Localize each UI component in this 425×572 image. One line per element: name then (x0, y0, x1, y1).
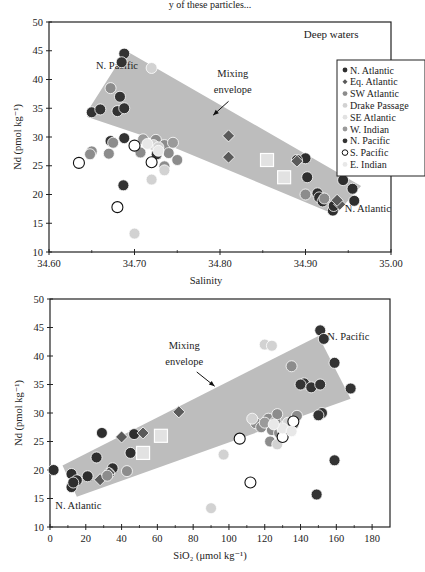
data-point-drake-passage (206, 503, 217, 514)
annotation: N. Atlantic (55, 500, 101, 511)
legend-marker (343, 68, 348, 73)
data-point-drake-passage (266, 340, 277, 351)
data-point-sw-atlantic (102, 470, 113, 481)
data-point-n-atlantic (91, 452, 102, 463)
data-point-n-pacific (116, 57, 127, 68)
y-axis-label: Nd (pmol kg⁻¹) (12, 104, 24, 170)
data-point-drake-passage (146, 174, 157, 185)
data-point-n-atlantic (349, 195, 360, 206)
legend-marker (343, 103, 348, 108)
annotation: envelope (214, 84, 252, 95)
data-point-sw-atlantic (286, 361, 297, 372)
data-point-s-pacific (146, 157, 157, 168)
x-tick-label: 180 (364, 533, 380, 544)
legend-marker (343, 115, 348, 120)
x-tick-label: 34.70 (123, 258, 147, 269)
data-point-sw-atlantic (85, 149, 96, 160)
x-tick-label: 100 (221, 533, 237, 544)
annotation: envelope (165, 356, 203, 367)
data-point-sw-atlantic (300, 189, 311, 200)
data-point-n-atlantic (347, 183, 358, 194)
data-point-s-pacific (288, 416, 299, 427)
data-point-drake-passage (129, 228, 140, 239)
data-point-n-pacific (329, 357, 340, 368)
legend-label: SW Atlantic (350, 88, 400, 99)
y-tick-label: 25 (34, 436, 45, 447)
data-point-drake-passage (247, 413, 258, 424)
data-point-drake-passage (146, 63, 157, 74)
data-point-n-atlantic (302, 172, 313, 183)
x-tick-label: 60 (152, 533, 163, 544)
y-tick-label: 25 (33, 160, 44, 171)
data-point-n-pacific (318, 333, 329, 344)
data-point-sw-atlantic (103, 148, 114, 159)
y-tick-label: 30 (33, 132, 44, 143)
legend-label: N. Atlantic (350, 65, 394, 76)
data-point-se-atlantic (278, 171, 291, 184)
x-tick-label: 34.60 (37, 258, 61, 269)
data-point-n-atlantic (82, 471, 93, 482)
legend-label: W. Indian (350, 124, 389, 135)
data-point-n-atlantic (125, 447, 136, 458)
data-point-n-pacific (119, 103, 130, 114)
legend-label: N. Pacific (350, 135, 391, 146)
legend-marker (343, 91, 348, 96)
figure: 34.6034.7034.8034.9035.00101520253035404… (0, 0, 425, 572)
y-tick-label: 20 (33, 189, 44, 200)
legend-marker (343, 138, 348, 143)
data-point-s-pacific (73, 157, 84, 168)
legend-label: Drake Passage (350, 100, 409, 111)
y-tick-label: 45 (34, 322, 45, 333)
y-tick-label: 35 (33, 103, 44, 114)
x-axis-label: SiO₂ (μmol kg⁻¹) (173, 550, 247, 562)
y-tick-label: 30 (34, 408, 45, 419)
x-axis-label: Salinity (190, 275, 223, 286)
y-tick-label: 15 (34, 493, 45, 504)
legend-label: SE Atlantic (350, 112, 396, 123)
data-point-s-pacific (245, 477, 256, 488)
annotation: Mixing (217, 68, 249, 79)
data-point-sw-atlantic (108, 137, 119, 148)
legend-label: E. Indian (350, 159, 387, 170)
y-tick-label: 10 (33, 247, 44, 258)
y-tick-label: 50 (34, 294, 45, 305)
data-point-n-pacific (95, 104, 106, 115)
y-tick-label: 40 (33, 74, 44, 85)
data-point-n-atlantic (48, 465, 59, 476)
data-point-sw-atlantic (105, 83, 116, 94)
x-tick-label: 140 (293, 533, 309, 544)
x-tick-label: 0 (47, 533, 52, 544)
annotation: Mixing (169, 340, 201, 351)
legend-label: S. Pacific (350, 147, 389, 158)
x-tick-label: 34.80 (208, 258, 232, 269)
data-point-n-atlantic (96, 427, 107, 438)
data-point-w-indian (167, 137, 178, 148)
data-point-n-pacific (114, 91, 125, 102)
legend-marker (342, 150, 348, 156)
data-point-sw-atlantic (319, 193, 330, 204)
x-tick-label: 20 (81, 533, 92, 544)
x-tick-label: 160 (328, 533, 344, 544)
x-tick-label: 34.90 (294, 258, 318, 269)
data-point-sw-atlantic (272, 409, 283, 420)
chart-sio2-vs-nd: 0204060801001201401601801015202530354045… (13, 294, 390, 563)
data-point-drake-passage (218, 449, 229, 460)
data-point-se-atlantic (137, 446, 150, 459)
x-tick-label: 80 (188, 533, 199, 544)
data-point-se-atlantic (154, 429, 167, 442)
data-point-e-indian (153, 145, 164, 156)
y-tick-label: 35 (34, 379, 45, 390)
y-tick-label: 15 (33, 218, 44, 229)
x-tick-label: 120 (257, 533, 273, 544)
legend-marker (343, 162, 348, 167)
data-point-s-pacific (112, 202, 123, 213)
annotation: N. Pacific (327, 331, 369, 342)
y-axis-label: Nd (pmol kg⁻¹) (13, 380, 25, 446)
data-point-n-pacific (313, 410, 324, 421)
data-point-n-pacific (119, 133, 130, 144)
y-tick-label: 50 (33, 17, 44, 28)
data-point-se-atlantic (261, 154, 274, 167)
data-point-n-pacific (311, 489, 322, 500)
chart-salinity-vs-nd: 34.6034.7034.8034.9035.00101520253035404… (12, 17, 425, 287)
data-point-e-indian (286, 426, 297, 437)
